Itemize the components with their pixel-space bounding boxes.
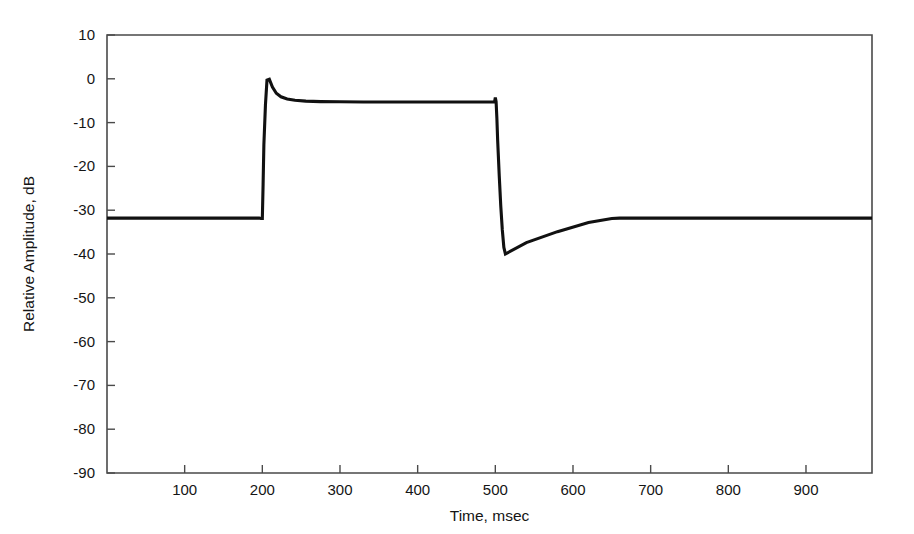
y-tick-label: -10 bbox=[73, 114, 95, 131]
x-tick-label: 700 bbox=[638, 481, 663, 498]
x-tick-label: 600 bbox=[560, 481, 585, 498]
y-tick-label: -20 bbox=[73, 157, 95, 174]
y-tick-label: -30 bbox=[73, 201, 95, 218]
chart-figure: 100-10-20-30-40-50-60-70-80-90 100200300… bbox=[0, 0, 914, 534]
y-axis-label: Relative Amplitude, dB bbox=[20, 176, 37, 332]
y-tick-label: -90 bbox=[73, 464, 95, 481]
x-tick-label: 300 bbox=[327, 481, 352, 498]
x-tick-label: 400 bbox=[405, 481, 430, 498]
x-tick-label: 900 bbox=[793, 481, 818, 498]
x-tick-label: 500 bbox=[483, 481, 508, 498]
y-tick-label: -60 bbox=[73, 333, 95, 350]
x-tick-label: 800 bbox=[716, 481, 741, 498]
figure-background bbox=[0, 0, 914, 534]
y-tick-label: -40 bbox=[73, 245, 95, 262]
y-tick-label: 0 bbox=[87, 70, 95, 87]
y-tick-label: -50 bbox=[73, 289, 95, 306]
x-axis-label: Time, msec bbox=[450, 507, 530, 524]
x-tick-label: 200 bbox=[250, 481, 275, 498]
y-tick-label: -70 bbox=[73, 376, 95, 393]
y-tick-label: -80 bbox=[73, 420, 95, 437]
y-tick-label: 10 bbox=[78, 26, 95, 43]
x-tick-label: 100 bbox=[172, 481, 197, 498]
relative-amplitude-plot: 100-10-20-30-40-50-60-70-80-90 100200300… bbox=[0, 0, 914, 534]
